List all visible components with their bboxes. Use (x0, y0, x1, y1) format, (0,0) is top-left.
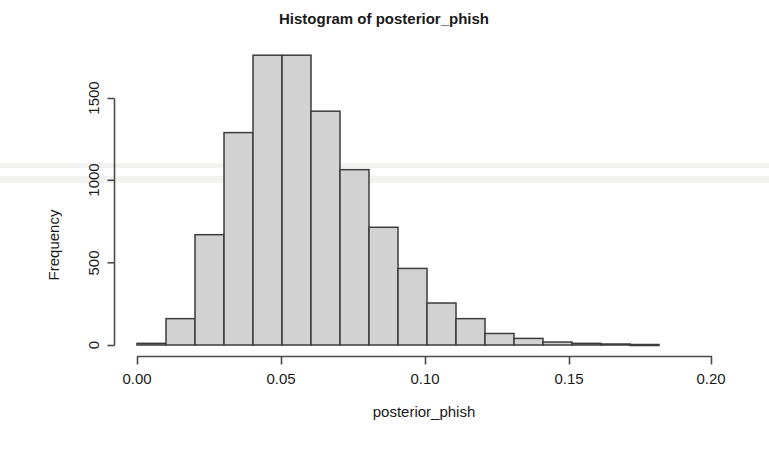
histogram-bar (514, 338, 543, 345)
histogram-bar (572, 343, 601, 345)
y-tick-label-1000: 1000 (85, 163, 102, 196)
histogram-bar (340, 170, 369, 345)
histogram-bar (369, 227, 398, 345)
histogram-bar (456, 319, 485, 345)
histogram-plot: Histogram of posterior_phish 0 500 1000 … (0, 0, 769, 458)
histogram-bar (195, 235, 224, 345)
histogram-bar (311, 111, 340, 345)
histogram-bar (630, 345, 659, 346)
histogram-bar (166, 319, 195, 345)
x-axis-title: posterior_phish (373, 403, 476, 420)
scan-artifact-band-lower (0, 176, 769, 183)
x-tick-label-0.15: 0.15 (554, 370, 583, 387)
x-tick-label-0.10: 0.10 (410, 370, 439, 387)
y-axis-title: Frequency (45, 209, 62, 280)
histogram-bar (398, 268, 427, 345)
page-title: Histogram of posterior_phish (279, 10, 489, 27)
histogram-bar (543, 342, 572, 345)
histogram-bar (137, 343, 166, 345)
histogram-bar (224, 133, 253, 345)
x-tick-label-0.20: 0.20 (696, 370, 725, 387)
x-tick-label-0.00: 0.00 (122, 370, 151, 387)
histogram-bar (427, 303, 456, 345)
histogram-bar (253, 55, 282, 345)
y-tick-label-0: 0 (85, 341, 102, 349)
y-tick-label-1500: 1500 (85, 81, 102, 114)
y-tick-label-500: 500 (85, 250, 102, 275)
histogram-bar (601, 344, 630, 345)
x-tick-label-0.05: 0.05 (266, 370, 295, 387)
histogram-bar (282, 55, 311, 345)
histogram-bar (485, 333, 514, 345)
scan-artifact-band-upper (0, 163, 769, 168)
